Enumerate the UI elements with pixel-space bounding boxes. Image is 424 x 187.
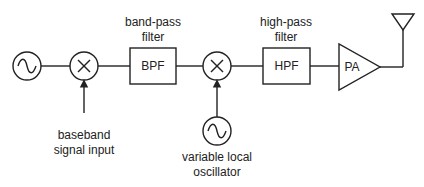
mixer-icon	[203, 52, 231, 80]
baseband-input-caption: baseband signal input	[44, 128, 124, 158]
bpf-caption-line2: filter	[118, 30, 188, 45]
hpf-caption-line1: high-pass	[251, 15, 321, 30]
bpf-label: BPF	[130, 59, 176, 73]
lo-caption: variable local oscillator	[172, 150, 262, 180]
oscillator-icon	[13, 52, 41, 80]
baseband-caption-line2: signal input	[44, 143, 124, 158]
hpf-caption-line2: filter	[251, 30, 321, 45]
hpf-label: HPF	[263, 59, 310, 73]
mixer-icon	[70, 52, 98, 80]
bpf-caption-line1: band-pass	[118, 15, 188, 30]
local-oscillator-icon	[203, 117, 231, 145]
lo-caption-line2: oscillator	[172, 165, 262, 180]
hpf-caption: high-pass filter	[251, 15, 321, 45]
pa-label: PA	[340, 60, 364, 74]
bpf-caption: band-pass filter	[118, 15, 188, 45]
lo-caption-line1: variable local	[172, 150, 262, 165]
antenna-icon	[392, 14, 414, 30]
baseband-caption-line1: baseband	[44, 128, 124, 143]
